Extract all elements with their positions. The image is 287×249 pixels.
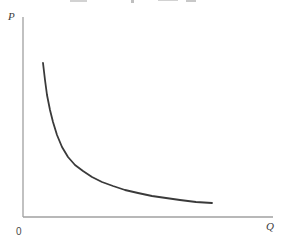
demand-curve (43, 63, 212, 203)
x-axis-label: Q (266, 221, 274, 232)
y-axis-label: P (8, 11, 15, 22)
origin-label: 0 (16, 226, 22, 237)
plot-area (0, 0, 287, 249)
figure-canvas: P Q 0 (0, 0, 287, 249)
